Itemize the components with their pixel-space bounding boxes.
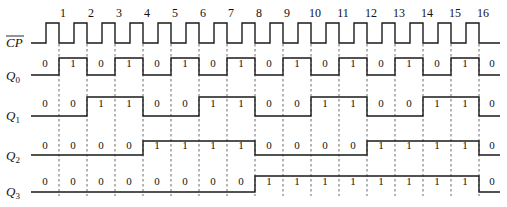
edge-number-6: 6 — [200, 6, 206, 20]
bit-q2-5: 1 — [182, 139, 188, 151]
bit-q2-1: 0 — [70, 139, 76, 151]
bit-q3-15: 1 — [462, 175, 468, 187]
edge-number-3: 3 — [116, 6, 122, 20]
edge-number-16: 16 — [477, 6, 489, 20]
bit-q0-0: 0 — [42, 57, 48, 69]
bit-q1-2: 1 — [98, 97, 104, 109]
bit-q1-10: 1 — [322, 97, 328, 109]
bit-q2-6: 1 — [210, 139, 216, 151]
bit-q0-1: 1 — [70, 57, 76, 69]
bit-q1-15: 1 — [462, 97, 468, 109]
bit-q0-12: 0 — [378, 57, 384, 69]
bit-q2-9: 0 — [294, 139, 300, 151]
edge-number-13: 13 — [393, 6, 405, 20]
timing-diagram: 12345678910111213141516 CPQ0Q1Q2Q3 01010… — [0, 0, 507, 207]
signal-label-q1: Q1 — [6, 108, 20, 125]
bit-q3-16: 0 — [489, 175, 495, 187]
bit-q0-7: 1 — [238, 57, 244, 69]
bit-q3-14: 1 — [434, 175, 440, 187]
bit-q2-2: 0 — [98, 139, 104, 151]
edge-number-11: 11 — [337, 6, 349, 20]
bit-q3-3: 0 — [126, 175, 132, 187]
bit-q0-3: 1 — [126, 57, 132, 69]
bit-q2-12: 1 — [378, 139, 384, 151]
bit-q1-11: 1 — [350, 97, 356, 109]
edge-number-8: 8 — [256, 6, 262, 20]
bit-q1-12: 0 — [378, 97, 384, 109]
bit-q0-2: 0 — [98, 57, 104, 69]
bit-q0-16: 0 — [489, 57, 495, 69]
bit-q2-10: 0 — [322, 139, 328, 151]
edge-number-9: 9 — [284, 6, 290, 20]
bit-q1-14: 1 — [434, 97, 440, 109]
bit-q1-4: 0 — [154, 97, 160, 109]
bit-q3-8: 1 — [266, 175, 272, 187]
edge-number-12: 12 — [365, 6, 377, 20]
bit-q3-1: 0 — [70, 175, 76, 187]
bit-q0-4: 0 — [154, 57, 160, 69]
bit-q2-14: 1 — [434, 139, 440, 151]
edge-number-labels: 12345678910111213141516 — [60, 6, 489, 20]
edge-number-7: 7 — [228, 6, 234, 20]
bit-q2-15: 1 — [462, 139, 468, 151]
bit-q2-16: 0 — [489, 139, 495, 151]
bit-q3-7: 0 — [238, 175, 244, 187]
bit-q0-8: 0 — [266, 57, 272, 69]
signal-label-q0: Q0 — [6, 68, 20, 85]
edge-number-4: 4 — [144, 6, 150, 20]
edge-number-14: 14 — [421, 6, 433, 20]
bit-q3-13: 1 — [406, 175, 412, 187]
waveform-cp — [31, 23, 500, 43]
bit-q0-5: 1 — [182, 57, 188, 69]
bit-q2-7: 1 — [238, 139, 244, 151]
signal-label-q3: Q3 — [6, 184, 20, 201]
bit-q2-13: 1 — [406, 139, 412, 151]
bit-q1-7: 1 — [238, 97, 244, 109]
edge-number-2: 2 — [88, 6, 94, 20]
bit-q2-8: 0 — [266, 139, 272, 151]
bit-q2-4: 1 — [154, 139, 160, 151]
bit-q0-13: 1 — [406, 57, 412, 69]
bit-q0-15: 1 — [462, 57, 468, 69]
bit-q1-8: 0 — [266, 97, 272, 109]
bit-q0-9: 1 — [294, 57, 300, 69]
bit-q3-10: 1 — [322, 175, 328, 187]
bit-q1-16: 0 — [489, 97, 495, 109]
bit-q1-5: 0 — [182, 97, 188, 109]
bit-q1-1: 0 — [70, 97, 76, 109]
bit-q3-9: 1 — [294, 175, 300, 187]
bit-q3-5: 0 — [182, 175, 188, 187]
bit-q2-0: 0 — [42, 139, 48, 151]
signal-label-q2: Q2 — [6, 148, 20, 165]
bit-q3-6: 0 — [210, 175, 216, 187]
bit-q0-6: 0 — [210, 57, 216, 69]
bit-q3-2: 0 — [98, 175, 104, 187]
signal-label-cp: CP — [6, 35, 23, 50]
signal-labels: CPQ0Q1Q2Q3 — [6, 35, 24, 201]
bit-q3-12: 1 — [378, 175, 384, 187]
bit-q2-3: 0 — [126, 139, 132, 151]
bit-q1-13: 0 — [406, 97, 412, 109]
bit-q1-0: 0 — [42, 97, 48, 109]
bit-q0-10: 0 — [322, 57, 328, 69]
bit-q1-6: 1 — [210, 97, 216, 109]
bit-value-labels: 0101010101010101000110011001100110000011… — [42, 57, 495, 186]
bit-q3-0: 0 — [42, 175, 48, 187]
bit-q0-11: 1 — [350, 57, 356, 69]
bit-q1-9: 0 — [294, 97, 300, 109]
edge-number-5: 5 — [172, 6, 178, 20]
edge-number-1: 1 — [60, 6, 66, 20]
bit-q2-11: 0 — [350, 139, 356, 151]
bit-q0-14: 0 — [434, 57, 440, 69]
edge-number-15: 15 — [449, 6, 461, 20]
bit-q3-4: 0 — [154, 175, 160, 187]
edge-number-10: 10 — [309, 6, 321, 20]
bit-q1-3: 1 — [126, 97, 132, 109]
bit-q3-11: 1 — [350, 175, 356, 187]
